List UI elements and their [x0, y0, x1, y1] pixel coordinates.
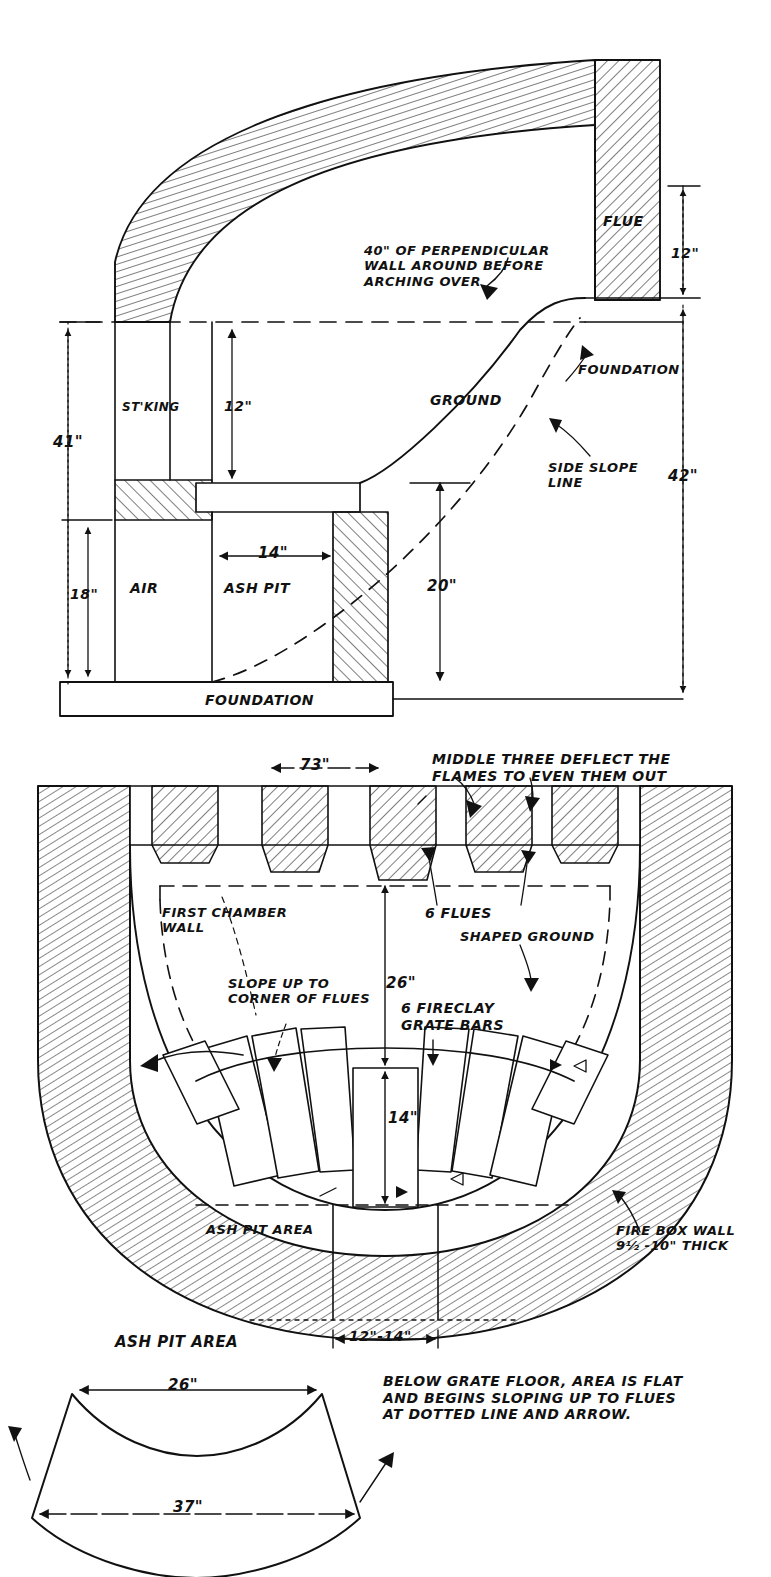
slope-up-label: SLOPE UP TO CORNER OF FLUES — [228, 976, 370, 1007]
ash-pit-area-plan-label: ASH PIT AREA — [206, 1222, 314, 1237]
six-flues-label: 6 FLUES — [425, 905, 492, 922]
deflect-note-label: MIDDLE THREE DEFLECT THE FLAMES TO EVEN … — [432, 751, 671, 784]
plan-section-geometry — [38, 768, 732, 1348]
shaped-ground-label: SHAPED GROUND — [460, 929, 595, 944]
ash-pit-label: ASH PIT — [224, 580, 290, 597]
arch-note-label: 40" OF PERPENDICULAR WALL AROUND BEFORE … — [364, 243, 550, 289]
stoking-label: ST'KING — [122, 400, 180, 414]
dim-flue-pitch: 73" — [300, 757, 330, 775]
foundation-right-label: FOUNDATION — [578, 362, 680, 377]
ash-pit-detail-title: ASH PIT AREA — [115, 1334, 238, 1352]
dim-air-height: 18" — [70, 586, 98, 603]
fire-box-wall-label: FIRE BOX WALL 9½ -10" THICK — [616, 1223, 735, 1254]
dim-stoking-height: 12" — [224, 398, 252, 415]
first-chamber-wall-label: FIRST CHAMBER WALL — [162, 905, 287, 936]
dim-ground-to-foundation: 42" — [668, 468, 698, 486]
foundation-bottom-label: FOUNDATION — [205, 692, 314, 709]
drawing-sheet: 40" OF PERPENDICULAR WALL AROUND BEFORE … — [0, 0, 771, 1577]
flue-label: FLUE — [603, 213, 644, 230]
dim-detail-top-width: 26" — [168, 1377, 198, 1395]
dim-ash-pit-width: 14" — [258, 545, 288, 563]
ground-label: GROUND — [430, 392, 502, 409]
grate-bars-label: 6 FIRECLAY GRATE BARS — [401, 1000, 504, 1033]
dim-grate-to-pit: 14" — [388, 1110, 418, 1128]
dim-chamber-to-grate: 26" — [386, 975, 416, 993]
dim-detail-bottom-width: 37" — [173, 1499, 203, 1517]
dim-ash-pit-depth: 20" — [427, 578, 457, 596]
side-slope-line-label: SIDE SLOPE LINE — [548, 460, 638, 491]
dim-flue-height: 12" — [671, 245, 699, 262]
dim-overall-height: 41" — [53, 434, 83, 452]
air-label: AIR — [130, 580, 158, 597]
below-grate-note: BELOW GRATE FLOOR, AREA IS FLAT AND BEGI… — [383, 1373, 683, 1423]
dim-pit-opening: 12"-14" — [349, 1328, 412, 1345]
ash-pit-detail-geometry — [8, 1390, 394, 1577]
section-elevation-geometry — [60, 60, 700, 716]
